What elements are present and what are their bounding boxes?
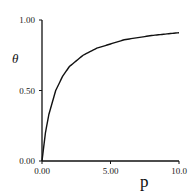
x-tick-label: 0.00 <box>34 166 50 176</box>
chart: 0.005.0010.00.000.501.00 θ p <box>0 0 196 194</box>
x-axis-label: p <box>140 172 149 191</box>
y-tick-label: 1.00 <box>19 15 35 25</box>
data-line <box>42 33 179 161</box>
y-axis-label: θ <box>12 51 19 66</box>
axes <box>42 20 179 161</box>
y-tick-label: 0.00 <box>19 156 35 166</box>
y-tick-label: 0.50 <box>19 86 35 96</box>
x-tick-label: 10.0 <box>171 166 187 176</box>
ticks: 0.005.0010.00.000.501.00 <box>19 15 187 176</box>
x-tick-label: 5.00 <box>103 166 119 176</box>
